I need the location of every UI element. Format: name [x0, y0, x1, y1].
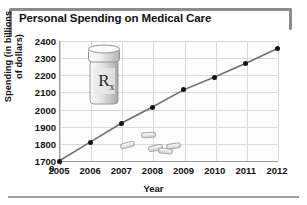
data-series [0, 0, 307, 205]
data-point [275, 46, 280, 51]
bottom-divider [8, 196, 299, 198]
data-point [212, 75, 217, 80]
data-point [88, 140, 93, 145]
data-point [57, 159, 62, 164]
data-point [119, 121, 124, 126]
data-point [150, 105, 155, 110]
chart-figure: Personal Spending on Medical Care Spendi… [0, 0, 307, 205]
